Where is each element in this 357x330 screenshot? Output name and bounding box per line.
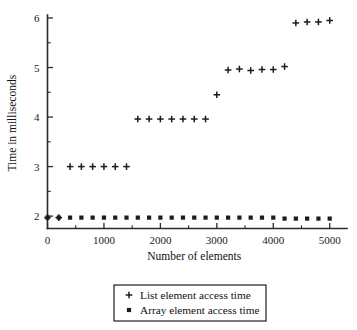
data-point-square (316, 216, 320, 220)
data-point-square (127, 308, 131, 312)
data-point-square (147, 216, 151, 220)
series-list (44, 17, 333, 221)
data-point-square (237, 216, 241, 220)
data-series (44, 17, 333, 221)
data-point-plus (157, 116, 164, 123)
data-point-plus (247, 67, 254, 74)
data-point-square (226, 216, 230, 220)
data-point-square (158, 216, 162, 220)
axis-tick-labels: 23456010002000300040005000 (34, 12, 341, 246)
data-point-plus (89, 163, 96, 170)
data-point-plus (168, 116, 175, 123)
scatter-plot: 23456010002000300040005000 Number of ele… (0, 0, 357, 330)
y-tick-label: 5 (34, 62, 40, 74)
data-point-square (215, 216, 219, 220)
data-point-square (45, 216, 49, 220)
chart-container: 23456010002000300040005000 Number of ele… (0, 0, 357, 330)
data-point-square (294, 216, 298, 220)
data-point-plus (146, 116, 153, 123)
data-point-square (68, 216, 72, 220)
data-point-square (113, 216, 117, 220)
data-point-plus (202, 116, 209, 123)
y-tick-label: 4 (34, 111, 40, 123)
data-point-square (91, 216, 95, 220)
legend-label: Array element access time (140, 304, 260, 316)
series-array (45, 216, 331, 221)
data-point-plus (135, 116, 142, 123)
data-point-square (124, 216, 128, 220)
data-point-plus (259, 66, 266, 73)
data-point-square (170, 216, 174, 220)
x-axis-title: Number of elements (147, 250, 241, 262)
y-tick-label: 2 (34, 210, 40, 222)
data-point-square (192, 216, 196, 220)
data-point-square (260, 216, 264, 220)
data-point-square (181, 216, 185, 220)
y-tick-label: 6 (34, 12, 40, 24)
data-point-plus (236, 66, 243, 73)
data-point-plus (191, 116, 198, 123)
axes (48, 15, 348, 229)
data-point-plus (315, 19, 322, 26)
data-point-square (271, 216, 275, 220)
data-point-plus (270, 66, 277, 73)
x-tick-label: 2000 (149, 234, 172, 246)
data-point-square (305, 216, 309, 220)
data-point-plus (214, 91, 221, 98)
data-point-square (328, 216, 332, 220)
y-axis-title: Time in milliseconds (6, 74, 18, 171)
data-point-plus (101, 163, 108, 170)
data-point-plus (78, 163, 85, 170)
data-point-plus (326, 17, 333, 24)
x-tick-label: 3000 (206, 234, 229, 246)
x-tick-label: 5000 (319, 234, 342, 246)
data-point-plus (180, 116, 187, 123)
data-point-square (282, 216, 286, 220)
data-point-square (79, 216, 83, 220)
axis-ticks (48, 18, 330, 229)
chart-legend: List element access timeArray element ac… (114, 285, 266, 321)
data-point-plus (123, 163, 130, 170)
y-tick-label: 3 (34, 161, 40, 173)
data-point-square (249, 216, 253, 220)
data-point-plus (293, 20, 300, 27)
data-point-plus (225, 67, 232, 74)
data-point-square (203, 216, 207, 220)
data-point-square (102, 216, 106, 220)
data-point-square (57, 216, 61, 220)
x-tick-label: 4000 (262, 234, 285, 246)
x-tick-label: 1000 (93, 234, 116, 246)
data-point-plus (67, 163, 74, 170)
data-point-plus (281, 63, 288, 70)
data-point-plus (304, 19, 311, 26)
data-point-square (136, 216, 140, 220)
data-point-plus (112, 163, 119, 170)
legend-label: List element access time (140, 289, 251, 301)
x-tick-label: 0 (45, 234, 51, 246)
